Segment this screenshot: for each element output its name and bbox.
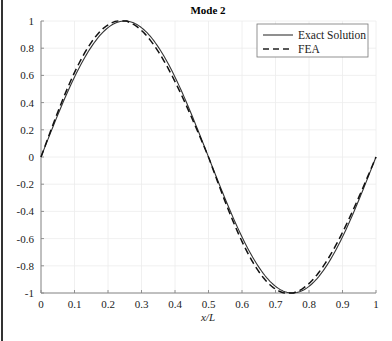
y-tick-label: -0.8 — [17, 260, 35, 272]
legend: Exact Solution FEA — [257, 24, 368, 57]
x-tick-label: 0.9 — [336, 298, 350, 310]
y-tick-label: 0.4 — [20, 97, 34, 109]
x-tick-label: 0.6 — [235, 298, 249, 310]
y-tick-label: 0 — [29, 151, 35, 163]
x-tick-label: 0 — [38, 298, 44, 310]
x-tick-label: 0.8 — [302, 298, 316, 310]
chart-title: Mode 2 — [190, 4, 226, 16]
x-tick-label: 0.5 — [202, 298, 216, 310]
x-axis-label: x/L — [200, 311, 215, 323]
y-tick-label: 1 — [29, 15, 35, 27]
x-tick-label: 0.7 — [269, 298, 283, 310]
y-tick-label: -1 — [25, 287, 34, 299]
chart-figure: 00.10.20.30.40.50.60.70.80.9110.80.60.40… — [0, 0, 392, 341]
legend-label-exact: Exact Solution — [298, 29, 366, 41]
y-tick-label: -0.4 — [17, 205, 35, 217]
legend-label-fea: FEA — [298, 43, 320, 55]
y-tick-label: -0.2 — [17, 178, 34, 190]
y-tick-label: 0.6 — [20, 69, 34, 81]
x-tick-label: 0.3 — [135, 298, 149, 310]
y-tick-label: 0.2 — [20, 124, 34, 136]
y-tick-label: -0.6 — [17, 233, 35, 245]
y-tick-label: 0.8 — [20, 42, 34, 54]
x-tick-label: 0.1 — [68, 298, 82, 310]
x-tick-label: 0.4 — [168, 298, 182, 310]
x-tick-label: 1 — [373, 298, 379, 310]
x-tick-label: 0.2 — [101, 298, 115, 310]
